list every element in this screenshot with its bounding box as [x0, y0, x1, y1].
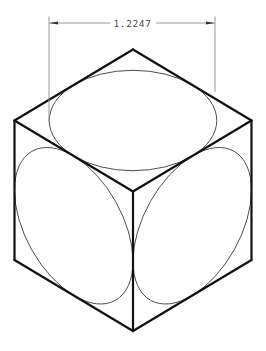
dimension-text: 1.2247: [114, 18, 152, 29]
cube-edge-right-center: [133, 121, 252, 192]
dimension-arrowhead-left: [49, 21, 58, 24]
cube-edges: [15, 50, 252, 332]
isometric-cube-drawing: 1.2247: [0, 0, 266, 351]
right-face-ellipse: [133, 121, 252, 332]
drawing-canvas: 1.2247: [0, 0, 266, 351]
dimension-arrowhead-right: [206, 21, 215, 24]
left-face-ellipse: [15, 121, 134, 332]
cube-edge-top-right: [133, 50, 252, 121]
cube-edge-bottom-bottom_left: [15, 260, 134, 331]
cube-edge-left-top: [15, 50, 134, 121]
cube-edge-bottom_right-bottom: [133, 260, 252, 331]
dimension-group: 1.2247: [49, 17, 215, 123]
top-face-ellipse: [15, 50, 252, 192]
cube-edge-left-center: [15, 121, 134, 192]
